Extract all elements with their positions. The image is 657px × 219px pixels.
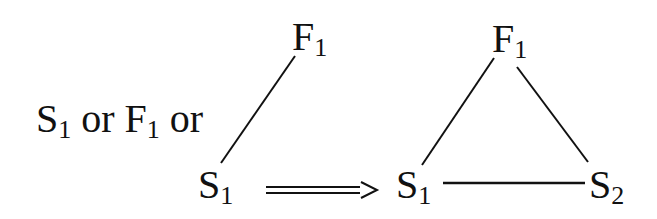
node-label: S [396,162,418,207]
node-sub: 1 [418,181,431,210]
cond-f-sub: 1 [147,115,160,144]
edge-right-f1-s1 [422,58,494,165]
node-label: S [198,162,220,207]
edge-right-f1-s2 [517,67,588,162]
cond-s-sub: 1 [58,115,71,144]
node-sub: 2 [611,181,624,210]
node-sub: 1 [314,33,327,62]
cond-or-2: or [160,96,203,141]
cond-or-1: or [71,96,124,141]
node-label: F [292,14,314,59]
condition-text: S1 or F1 or [36,99,203,143]
node-sub: 1 [514,35,527,64]
implication-arrow-icon [266,182,377,198]
cond-f: F [125,96,147,141]
node-left-f1: F1 [292,17,327,61]
node-label: F [492,16,514,61]
node-right-s2: S2 [589,165,624,209]
node-left-s1: S1 [198,165,233,209]
node-right-f1: F1 [492,19,527,63]
node-sub: 1 [220,181,233,210]
diagram-canvas: S1 or F1 or F1 S1 F1 S1 S2 [0,0,657,219]
node-right-s1: S1 [396,165,431,209]
node-label: S [589,162,611,207]
edge-left-f1-s1 [221,56,295,163]
cond-s: S [36,96,58,141]
